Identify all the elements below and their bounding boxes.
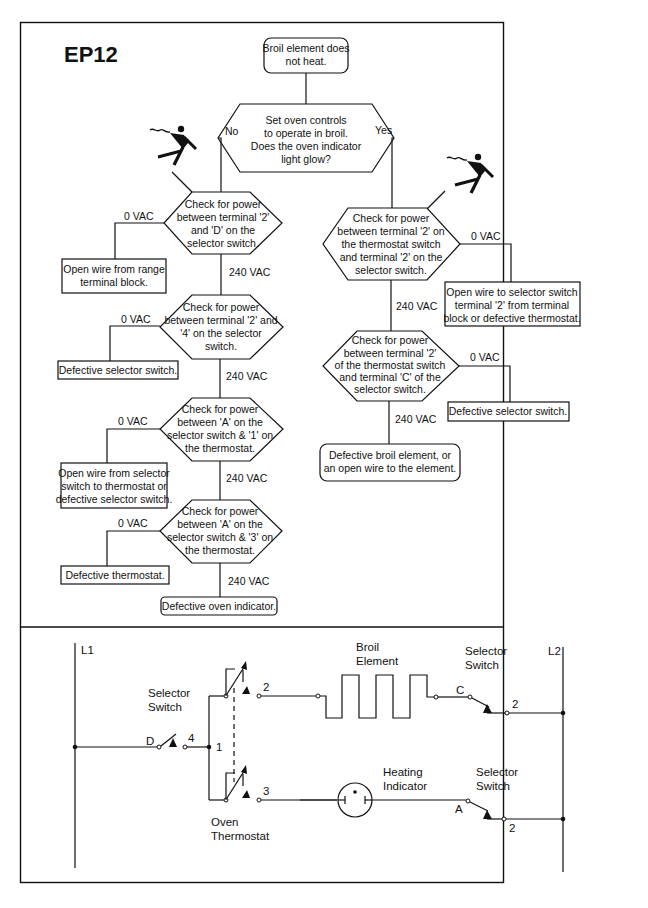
right-check-2-line: selector switch. [354, 383, 426, 395]
left-check-1-line: and 'D' on the [191, 224, 255, 236]
terminal-2-label: 2 [263, 681, 269, 693]
left-check-4-fail-label: 0 VAC [118, 517, 148, 529]
decision-line-2: to operate in broil. [264, 127, 348, 139]
oven-thermostat-label: Thermostat [211, 830, 270, 842]
left-check-1-line: between terminal '2' [177, 211, 270, 223]
no-label: No [225, 125, 239, 137]
right-check-1-line: and terminal '2' on the [340, 251, 443, 263]
left-check-4-line: the thermostat. [185, 544, 255, 556]
left-check-3-line: selector switch & '1' on [167, 429, 273, 441]
yes-label: Yes [375, 124, 392, 136]
left-check-4-line: Check for power [182, 505, 259, 517]
terminal-2-lower-label: 2 [509, 822, 515, 834]
terminal-2-right-label: 2 [512, 698, 518, 710]
left-result-2-line: Defective selector switch. [59, 364, 177, 376]
left-check-1-pass-label: 240 VAC [229, 266, 271, 278]
oven-thermostat-label: Oven [211, 816, 239, 828]
left-check-3-line: Check for power [182, 403, 259, 415]
left-result-3-line: defective selector switch. [56, 493, 173, 505]
left-check-4-pass-label: 240 VAC [228, 575, 270, 587]
left-end-text: Defective oven indicator. [162, 600, 276, 612]
right-check-1-fail-label: 0 VAC [471, 230, 501, 242]
right-check-2-line: and terminal 'C' of the [339, 371, 441, 383]
start-text-1: Broil element does [263, 42, 350, 54]
left-check-2-line: switch. [205, 340, 237, 352]
left-result-3-line: switch to thermostat or [61, 480, 167, 492]
decision-line-1: Set oven controls [265, 114, 346, 126]
selector-switch-a-label: Switch [476, 780, 510, 792]
right-check-2-line: between terminal '2' [344, 347, 437, 359]
right-check-2-line: Check for power [352, 334, 429, 346]
right-check-2-line: of the thermostat switch [335, 359, 446, 371]
left-check-3-fail-label: 0 VAC [118, 415, 148, 427]
electrical-shock-hazard-icon [150, 126, 196, 165]
terminal-1-label: 1 [216, 741, 222, 753]
right-check-1-line: selector switch. [355, 264, 427, 276]
electrical-shock-hazard-icon [447, 154, 493, 193]
right-result-1-line: block or defective thermostat. [443, 312, 580, 324]
right-check-2-fail-label: 0 VAC [470, 351, 500, 363]
right-check-1-line: the thermostat switch [341, 238, 440, 250]
right-check-1-line: Check for power [353, 212, 430, 224]
l1-label: L1 [81, 644, 94, 656]
right-check-2-pass-label: 240 VAC [395, 413, 437, 425]
right-end-line: an open wire to the element. [324, 462, 457, 474]
right-check-1-pass-label: 240 VAC [396, 300, 438, 312]
left-check-4-line: between 'A' on the [177, 518, 263, 530]
left-check-3-line: the thermostat. [185, 442, 255, 454]
left-check-2-pass-label: 240 VAC [226, 370, 268, 382]
left-check-1-fail-label: 0 VAC [124, 210, 154, 222]
left-result-1-line: Open wire from range [63, 263, 165, 275]
terminal-c-label: C [456, 684, 464, 696]
left-result-3-line: Open wire from selector [58, 467, 170, 479]
terminal-d-label: D [146, 735, 154, 747]
broil-element-label: Broil [356, 641, 379, 653]
start-text-2: not heat. [286, 55, 327, 67]
terminal-3-label: 3 [263, 785, 269, 797]
terminal-a-label: A [455, 803, 463, 815]
right-result-1-line: terminal '2' from terminal [455, 299, 569, 311]
selector-switch-c-label: Switch [465, 659, 499, 671]
l2-label: L2 [548, 645, 561, 657]
left-result-4-line: Defective thermostat. [65, 569, 164, 581]
heating-indicator-label: Heating [383, 766, 423, 778]
left-check-2-line: '4' on the selector [180, 327, 262, 339]
left-check-2-line: Check for power [183, 301, 260, 313]
troubleshooting-diagram: EP12 Broil element does not heat. Set ov… [0, 0, 648, 908]
right-check-1-line: between terminal '2' on [337, 225, 444, 237]
decision-line-4: light glow? [281, 153, 331, 165]
right-result-2-line: Defective selector switch. [449, 405, 567, 417]
left-result-1-line: terminal block. [80, 276, 148, 288]
terminal-4-label: 4 [188, 732, 195, 744]
left-check-2-fail-label: 0 VAC [121, 313, 151, 325]
left-check-4-line: selector switch & '3' on [167, 531, 273, 543]
selector-switch-c-label: Selector [465, 645, 507, 657]
selector-switch-label: Switch [148, 701, 182, 713]
right-end-line: Defective broil element, or [329, 449, 451, 461]
wiring-schematic: L1 L2 D 4 1 Selector Switch 2 [73, 641, 566, 872]
selector-switch-label: Selector [148, 687, 190, 699]
left-check-1-line: Check for power [185, 198, 262, 210]
right-result-1-line: Open wire to selector switch [446, 286, 577, 298]
left-check-3-pass-label: 240 VAC [226, 472, 268, 484]
heating-indicator-label: Indicator [383, 780, 427, 792]
left-check-3-line: between 'A' on the [177, 416, 263, 428]
left-check-2-line: between terminal '2' and [164, 314, 277, 326]
decision-line-3: Does the oven indicator [251, 140, 362, 152]
left-check-1-line: selector switch. [187, 237, 259, 249]
page-title: EP12 [64, 42, 118, 67]
selector-switch-a-label: Selector [476, 766, 518, 778]
broil-element-label: Element [356, 655, 399, 667]
